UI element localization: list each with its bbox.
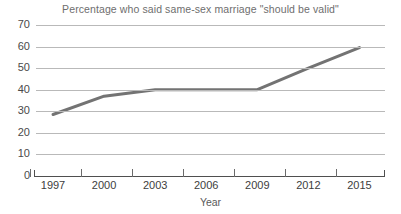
x-axis-tick-label: 2000 [82, 180, 126, 191]
x-axis-line [34, 176, 385, 177]
y-axis-tick-labels: 010203040506070 [6, 0, 30, 214]
y-axis-tick-label: 60 [6, 41, 30, 52]
x-axis-tick-label: 2012 [286, 180, 330, 191]
x-axis-tick-label: 2015 [337, 180, 381, 191]
y-axis-tick-label: 50 [6, 62, 30, 73]
plot-area [36, 25, 385, 176]
gridline [36, 68, 385, 69]
gridline [36, 133, 385, 134]
x-axis-tick [285, 169, 286, 177]
y-axis-tick-label: 40 [6, 84, 30, 95]
y-axis-tick-label: 20 [6, 127, 30, 138]
gridline [36, 47, 385, 48]
x-axis-end-cap [384, 170, 385, 177]
x-axis-tick [30, 169, 31, 177]
data-series-line [36, 25, 385, 176]
y-axis-tick-label: 30 [6, 105, 30, 116]
x-axis-tick-label: 2006 [184, 180, 228, 191]
x-axis-title: Year [36, 196, 385, 208]
y-axis-origin-stub [34, 170, 35, 177]
y-axis-tick-label: 70 [6, 19, 30, 30]
x-axis-tick-label: 2003 [133, 180, 177, 191]
gridline [36, 25, 385, 26]
line-chart: Percentage who said same-sex marriage "s… [0, 0, 401, 214]
x-axis-tick [81, 169, 82, 177]
x-axis-tick-label: 1997 [31, 180, 75, 191]
x-axis-tick [132, 169, 133, 177]
y-axis-tick-label: 10 [6, 148, 30, 159]
gridline [36, 111, 385, 112]
x-axis-tick-label: 2009 [235, 180, 279, 191]
chart-title: Percentage who said same-sex marriage "s… [0, 3, 401, 15]
x-axis-tick [234, 169, 235, 177]
x-axis-tick [336, 169, 337, 177]
x-axis-tick [183, 169, 184, 177]
gridline [36, 90, 385, 91]
gridline [36, 154, 385, 155]
y-axis-tick-label: 0 [6, 170, 30, 181]
